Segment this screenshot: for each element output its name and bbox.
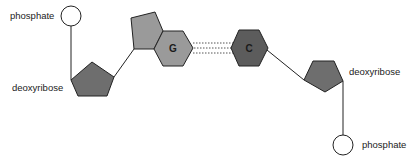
phosphate-bottom-circle [333,135,353,155]
cytosine-label: C [245,43,252,54]
sugar-base-bond-left [114,49,134,77]
guanine-label: G [169,43,177,54]
base-sugar-bond-right [267,50,304,80]
deoxyribose-right-label: deoxyribose [349,66,400,77]
phosphate-top-circle [61,6,81,26]
deoxyribose-left-pentagon [71,62,114,96]
phosphate-top-label: phosphate [10,10,54,21]
deoxyribose-left-label: deoxyribose [12,82,63,93]
deoxyribose-right-pentagon [304,61,343,92]
dna-base-pair-diagram: phosphate deoxyribose G C deoxyribose ph… [0,0,413,159]
hydrogen-bonds [193,43,233,53]
phosphate-bottom-label: phosphate [362,139,406,150]
